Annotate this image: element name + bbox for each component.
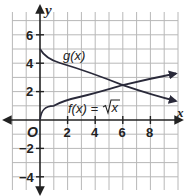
x-tick-label-2: 2: [64, 125, 71, 140]
x-axis-label: x: [176, 105, 184, 120]
y-tick-label-4: 4: [26, 56, 34, 71]
f-label-radicand: x: [111, 100, 119, 115]
y-tick-label-6: 6: [26, 28, 33, 43]
x-tick-label-4: 4: [91, 125, 99, 140]
coordinate-graph: 2 4 6 8 6 4 2 −2 −4 O y x g(x) f(x) = x: [0, 0, 185, 196]
f-label-prefix: f(x) =: [68, 101, 98, 116]
x-tick-label-8: 8: [146, 125, 153, 140]
g-label: g(x): [63, 48, 85, 63]
y-tick-label-neg2: −2: [19, 141, 34, 156]
x-tick-label-6: 6: [119, 125, 126, 140]
y-tick-label-2: 2: [26, 84, 33, 99]
y-tick-label-neg4: −4: [19, 170, 35, 185]
origin-label: O: [27, 124, 38, 140]
g-curve: [40, 49, 176, 101]
f-label: f(x) = x: [68, 100, 120, 116]
y-axis-label: y: [43, 2, 52, 18]
